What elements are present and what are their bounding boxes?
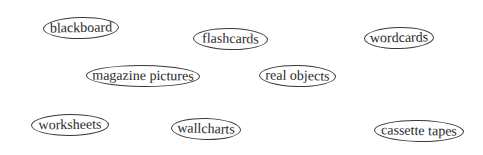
label-text: wallcharts [177, 119, 235, 138]
label-text: cassette tapes [381, 121, 457, 140]
label-magazine-pictures: magazine pictures [86, 65, 200, 88]
label-text: wordcards [370, 28, 429, 47]
label-text: real objects [265, 66, 329, 85]
label-text: magazine pictures [92, 67, 194, 86]
label-text: flashcards [202, 30, 259, 49]
label-real-objects: real objects [259, 64, 336, 87]
label-wordcards: wordcards [364, 26, 434, 49]
label-worksheets: worksheets [31, 114, 109, 137]
word-label-canvas: blackboard flashcards wordcards magazine… [0, 0, 483, 155]
label-text: worksheets [38, 116, 101, 135]
label-wallcharts: wallcharts [171, 117, 242, 141]
label-text: blackboard [50, 18, 113, 37]
label-blackboard: blackboard [43, 16, 119, 39]
label-flashcards: flashcards [193, 27, 268, 50]
label-cassette-tapes: cassette tapes [374, 119, 464, 143]
